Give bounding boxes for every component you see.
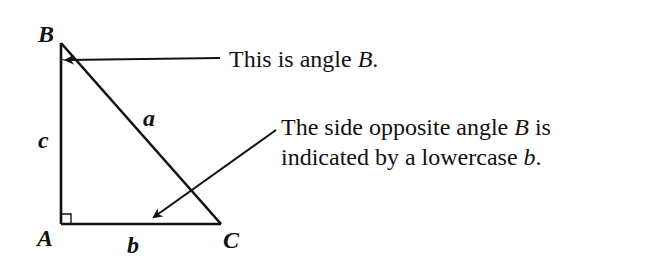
right-angle-marker xyxy=(61,214,71,224)
caption-text: is xyxy=(529,114,551,140)
vertex-label-b: B xyxy=(37,21,54,47)
vertex-label-a: A xyxy=(35,225,53,251)
caption-text: . xyxy=(536,144,542,170)
side-b-pointer-arrow xyxy=(154,130,276,217)
caption-italic-letter: B xyxy=(514,114,529,140)
caption-italic-letter: b xyxy=(524,144,536,170)
triangle-diagram: B A C a b c This is angle B. The side op… xyxy=(0,0,650,261)
side-label-c: c xyxy=(38,127,49,153)
side-b-caption-line-1: The side opposite angle B is xyxy=(281,114,551,140)
side-b-caption-line-2: indicated by a lowercase b. xyxy=(281,144,542,170)
caption-text: The side opposite angle xyxy=(281,114,514,140)
side-a xyxy=(61,43,221,224)
angle-b-pointer-arrow xyxy=(66,58,220,60)
vertex-label-c: C xyxy=(223,227,240,253)
caption-text: . xyxy=(372,46,378,72)
caption-italic-letter: B xyxy=(358,46,373,72)
caption-text: indicated by a lowercase xyxy=(281,144,524,170)
caption-text: This is angle xyxy=(229,46,358,72)
angle-b-caption: This is angle B. xyxy=(229,46,378,72)
side-label-a: a xyxy=(143,105,155,131)
side-label-b: b xyxy=(127,232,139,258)
